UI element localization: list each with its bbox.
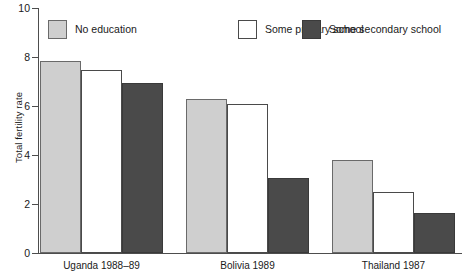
x-axis-line [38, 253, 462, 254]
x-axis-label: Bolivia 1989 [188, 260, 308, 271]
legend-item: No education [48, 18, 137, 40]
y-axis-tick-label: 0 [2, 248, 30, 258]
y-axis-tick-label: 8 [2, 52, 30, 62]
legend-swatch-icon [302, 20, 321, 39]
bar [227, 104, 268, 253]
bar [414, 213, 455, 253]
legend-swatch-icon [238, 20, 257, 39]
bar-group [332, 8, 455, 253]
bar [81, 70, 122, 253]
plot-area [38, 8, 462, 253]
bar [332, 160, 373, 253]
bar [122, 83, 163, 253]
y-axis-tick-label: 2 [2, 199, 30, 209]
legend-label: No education [75, 24, 137, 35]
y-axis-tick-label: 4 [2, 150, 30, 160]
bar [40, 61, 81, 253]
legend-label: Some secondary school [329, 24, 441, 35]
bar [268, 178, 309, 253]
x-axis-label: Uganda 1988–89 [42, 260, 162, 271]
legend-swatch-icon [48, 20, 67, 39]
bar [373, 192, 414, 253]
y-axis-tick-label: 10 [2, 3, 30, 13]
x-axis-label: Thailand 1987 [334, 260, 454, 271]
y-axis-tick-label: 6 [2, 101, 30, 111]
bar-group [186, 8, 309, 253]
bar-group [40, 8, 163, 253]
fertility-bar-chart: Total fertility rate 1086420 Uganda 1988… [0, 0, 467, 279]
y-axis-title: Total fertility rate [13, 68, 24, 188]
y-axis-tick [32, 253, 39, 254]
legend-item: Some secondary school [302, 18, 441, 40]
bar [186, 99, 227, 253]
